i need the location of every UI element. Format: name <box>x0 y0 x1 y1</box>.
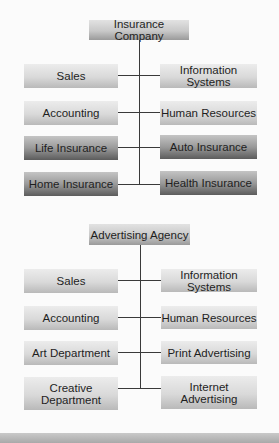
insurance-root-box: Insurance Company <box>89 20 189 40</box>
insurance-human-resources-box: Human Resources <box>160 101 257 125</box>
connector <box>118 317 161 318</box>
advertising-sales-box: Sales <box>24 269 118 293</box>
connector <box>118 112 160 113</box>
advertising-information-systems-box: Information Systems <box>161 269 257 292</box>
insurance-life-insurance-box: Life Insurance <box>24 136 118 160</box>
bottom-divider-bar <box>0 433 279 443</box>
advertising-internet-advertising-box: Internet Advertising <box>161 376 257 409</box>
advertising-creative-department-box: Creative Department <box>24 377 118 410</box>
connector <box>118 352 161 353</box>
insurance-accounting-box: Accounting <box>24 101 118 125</box>
connector <box>118 75 160 76</box>
insurance-sales-box: Sales <box>24 64 118 88</box>
advertising-art-department-box: Art Department <box>24 341 118 365</box>
connector <box>118 147 160 148</box>
insurance-auto-insurance-box: Auto Insurance <box>160 135 257 159</box>
connector <box>118 388 161 389</box>
advertising-root-box: Advertising Agency <box>89 224 190 245</box>
advertising-human-resources-box: Human Resources <box>161 306 257 329</box>
insurance-information-systems-box: Information Systems <box>160 64 257 88</box>
insurance-health-insurance-box: Health Insurance <box>160 171 257 195</box>
insurance-home-insurance-box: Home Insurance <box>24 172 118 196</box>
advertising-print-advertising-box: Print Advertising <box>161 341 257 364</box>
connector <box>118 184 160 185</box>
advertising-accounting-box: Accounting <box>24 306 118 330</box>
connector <box>118 280 161 281</box>
